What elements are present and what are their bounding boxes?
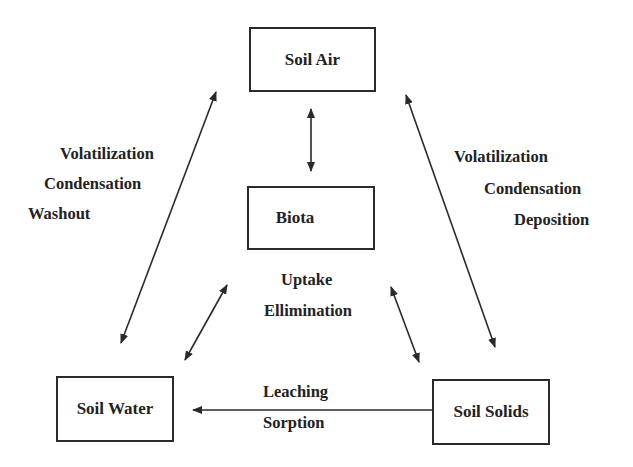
node-soil-solids: Soil Solids bbox=[432, 379, 550, 445]
node-soil-air: Soil Air bbox=[249, 27, 376, 92]
edge-label: Volatilization bbox=[454, 149, 548, 166]
edge-label: Uptake bbox=[281, 272, 332, 289]
edge-label: Ellimination bbox=[264, 303, 352, 320]
node-label: Soil Water bbox=[77, 399, 154, 419]
node-label: Biota bbox=[276, 208, 315, 228]
edge-label: Volatilization bbox=[60, 146, 154, 163]
arrow-air-solids bbox=[406, 95, 495, 347]
node-soil-water: Soil Water bbox=[56, 376, 174, 442]
node-biota: Biota bbox=[247, 186, 375, 250]
arrow-biota-water bbox=[185, 285, 227, 360]
edge-label: Washout bbox=[28, 206, 90, 223]
arrow-biota-solids bbox=[391, 287, 419, 362]
node-label: Soil Air bbox=[285, 50, 340, 70]
arrow-air-water bbox=[121, 92, 216, 343]
edge-label: Sorption bbox=[263, 415, 324, 432]
node-label: Soil Solids bbox=[453, 402, 528, 422]
edge-label: Deposition bbox=[514, 212, 589, 229]
edge-label: Leaching bbox=[263, 384, 328, 401]
edge-label: Condensation bbox=[44, 176, 141, 193]
edge-label: Condensation bbox=[484, 181, 581, 198]
